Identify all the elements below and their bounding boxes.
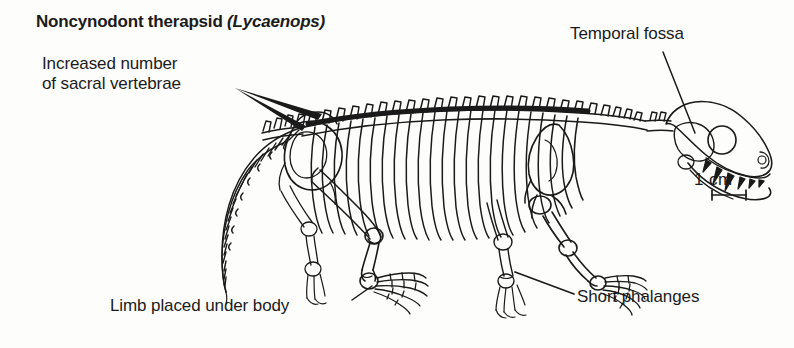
annotation-temporal-fossa: Temporal fossa <box>570 24 684 44</box>
scapula-shoulder <box>525 124 574 218</box>
leader-limb <box>352 286 372 300</box>
hind-limb-far <box>281 186 326 304</box>
figure-panel: Noncynodont therapsid (Lycaenops) Increa… <box>0 0 794 348</box>
tail-vertebrae <box>222 128 300 292</box>
leader-phalanges <box>515 272 574 294</box>
scale-bar-label: 1 cm <box>694 170 732 190</box>
annotation-sacral-line1: Increased number <box>42 54 177 73</box>
cervical-vertebrae <box>645 112 673 131</box>
annotation-sacral-line2: of sacral vertebrae <box>42 74 181 93</box>
hind-limb <box>312 168 428 314</box>
figure-title: Noncynodont therapsid (Lycaenops) <box>36 12 325 32</box>
annotation-short-phalanges: Short phalanges <box>577 287 699 307</box>
forefoot-far-phalanges <box>496 285 526 318</box>
figure-title-genus: (Lycaenops) <box>227 12 325 31</box>
hind-foot-phalanges <box>374 273 428 314</box>
figure-title-common: Noncynodont therapsid <box>36 12 227 31</box>
annotation-sacral-vertebrae: Increased numberof sacral vertebrae <box>42 54 181 94</box>
annotation-limb-under-body: Limb placed under body <box>110 296 289 316</box>
